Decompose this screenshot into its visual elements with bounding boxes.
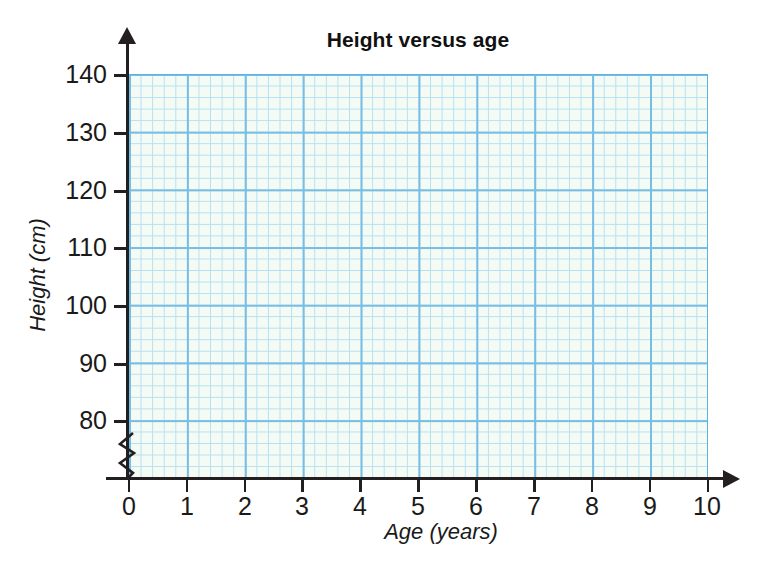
x-tick-mark: [591, 477, 594, 492]
y-axis-title: Height (cm): [25, 165, 51, 385]
x-tick-label: 0: [99, 492, 159, 521]
x-tick-mark: [707, 477, 710, 492]
y-tick-label: 110: [7, 233, 107, 262]
plot-paper-tint: [129, 74, 708, 478]
y-axis-line: [126, 40, 129, 480]
x-tick-mark: [533, 477, 536, 492]
x-tick-label: 8: [562, 492, 622, 521]
x-tick-label: 3: [272, 492, 332, 521]
x-tick-mark: [128, 477, 131, 492]
y-axis-break-icon: [112, 432, 146, 478]
x-tick-mark: [649, 477, 652, 492]
y-tick-label: 80: [7, 406, 107, 435]
y-tick-mark: [114, 247, 129, 250]
x-tick-label: 9: [620, 492, 680, 521]
x-tick-label: 4: [330, 492, 390, 521]
x-tick-mark: [301, 477, 304, 492]
x-tick-mark: [244, 477, 247, 492]
x-axis-title: Age (years): [330, 519, 552, 545]
y-tick-mark: [114, 305, 129, 308]
x-tick-label: 6: [446, 492, 506, 521]
y-tick-label: 120: [7, 176, 107, 205]
x-axis-arrowhead-icon: [723, 470, 740, 488]
x-tick-mark: [186, 477, 189, 492]
x-tick-label: 7: [504, 492, 564, 521]
x-tick-label: 1: [157, 492, 217, 521]
x-tick-label: 10: [677, 492, 737, 521]
y-axis-arrowhead-icon: [118, 27, 136, 44]
x-tick-label: 2: [215, 492, 275, 521]
chart-title: Height versus age: [128, 28, 708, 52]
x-tick-mark: [359, 477, 362, 492]
y-tick-mark: [114, 363, 129, 366]
x-tick-mark: [417, 477, 420, 492]
y-tick-mark: [114, 190, 129, 193]
y-tick-mark: [114, 420, 129, 423]
x-tick-mark: [475, 477, 478, 492]
y-tick-mark: [114, 74, 129, 77]
chart-figure: Height versus age 140 130 120 110 100 90…: [0, 0, 757, 577]
y-tick-mark: [114, 132, 129, 135]
y-tick-label: 130: [7, 118, 107, 147]
y-tick-label: 140: [7, 60, 107, 89]
y-tick-label: 100: [7, 291, 107, 320]
y-tick-label: 90: [7, 349, 107, 378]
plot-area: [129, 74, 708, 478]
x-tick-label: 5: [388, 492, 448, 521]
